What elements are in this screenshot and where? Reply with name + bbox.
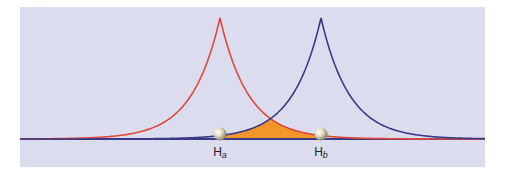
diagram-panel — [20, 7, 485, 167]
orbital-overlap-diagram: Ha Hb — [0, 0, 507, 177]
nucleus-a-sphere — [214, 128, 227, 141]
nucleus-b-sphere — [315, 128, 328, 141]
